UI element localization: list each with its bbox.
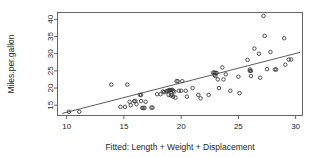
x-tick-label: 25 — [234, 122, 243, 131]
y-tick-label: 20 — [46, 83, 55, 92]
x-tick-label: 20 — [177, 122, 186, 131]
data-point — [78, 110, 82, 114]
data-point — [155, 92, 159, 96]
regression-line — [62, 52, 300, 113]
data-point — [184, 89, 188, 93]
data-point — [167, 93, 171, 97]
x-axis-tick-labels: 1015202530 — [62, 122, 300, 131]
data-point — [197, 93, 201, 97]
data-point — [284, 63, 288, 67]
data-point — [185, 95, 189, 99]
x-axis-title: Fitted: Length + Weight + Displacement — [105, 142, 255, 152]
plot-frame — [58, 13, 303, 116]
data-point — [265, 67, 269, 71]
data-point — [238, 91, 242, 95]
y-axis-tick-labels: 152025303540 — [46, 14, 55, 109]
data-point — [217, 86, 221, 90]
data-point — [269, 50, 273, 54]
y-tick-label: 35 — [46, 32, 55, 41]
data-point — [253, 47, 257, 51]
x-axis-ticks — [67, 116, 296, 120]
fit-line — [62, 52, 300, 113]
x-tick-label: 15 — [119, 122, 128, 131]
data-point — [289, 58, 293, 62]
data-point — [110, 83, 114, 87]
data-point — [249, 74, 253, 78]
x-tick-label: 30 — [291, 122, 300, 131]
data-point — [199, 97, 203, 101]
data-point — [224, 73, 228, 77]
data-point — [229, 89, 233, 93]
data-point — [258, 76, 262, 80]
data-point — [126, 83, 130, 87]
data-point — [144, 100, 148, 104]
data-point — [135, 102, 139, 106]
y-tick-label: 30 — [46, 49, 55, 58]
data-point — [262, 14, 266, 18]
plot-canvas: 1015202530 152025303540 Fitted: Length +… — [0, 0, 319, 157]
data-point — [263, 34, 267, 38]
y-axis-title: Miles.per.gallon — [6, 34, 16, 93]
data-point — [123, 105, 127, 109]
x-tick-label: 10 — [62, 122, 71, 131]
data-point — [139, 99, 143, 103]
data-point — [221, 66, 225, 70]
scatter-plot-figure: 1015202530 152025303540 Fitted: Length +… — [0, 0, 319, 157]
y-tick-label: 40 — [46, 14, 55, 23]
data-point — [119, 105, 123, 109]
data-point — [128, 100, 132, 104]
data-point — [257, 52, 261, 56]
data-point — [282, 37, 286, 41]
data-point — [246, 58, 250, 62]
data-point — [129, 103, 133, 107]
data-point — [207, 93, 211, 97]
data-point — [237, 75, 241, 79]
y-tick-label: 15 — [46, 100, 55, 109]
y-tick-label: 25 — [46, 66, 55, 75]
data-point — [222, 78, 226, 82]
data-point — [216, 78, 220, 82]
data-point-group — [67, 14, 293, 113]
data-point — [179, 89, 183, 93]
data-point — [191, 86, 195, 90]
